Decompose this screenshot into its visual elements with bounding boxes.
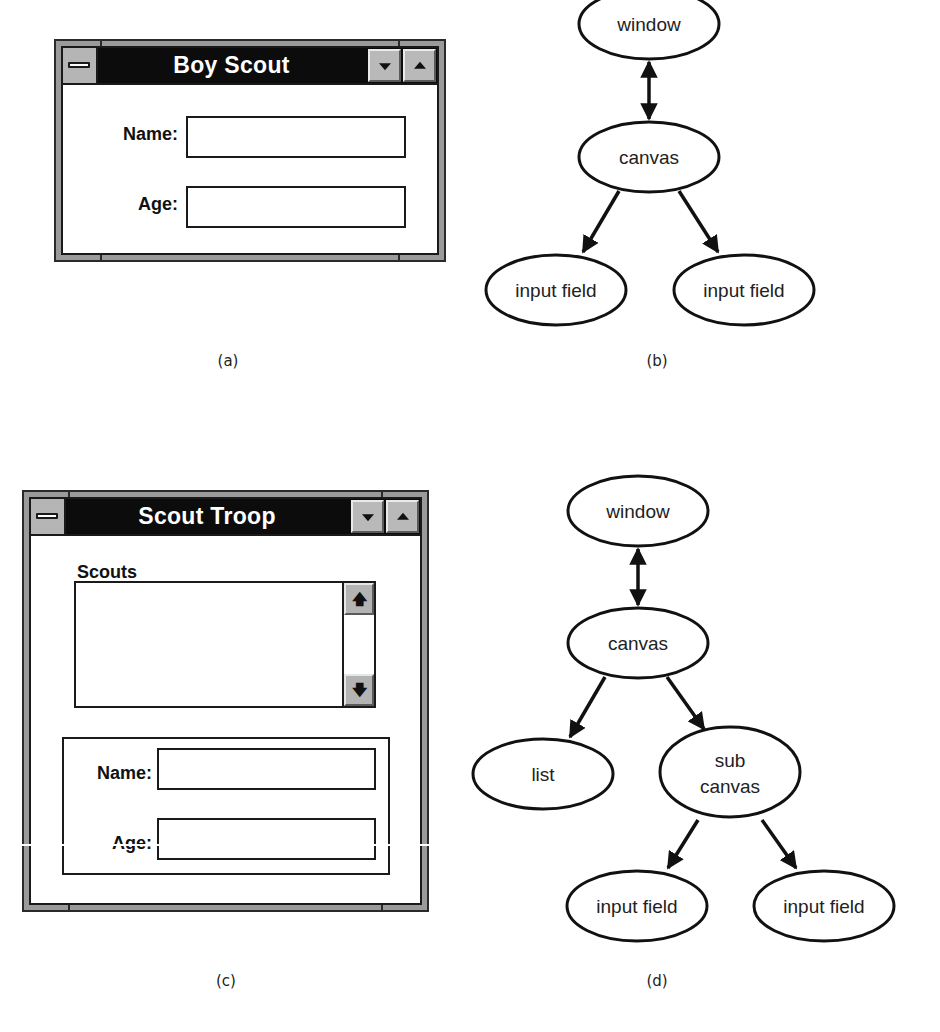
scroll-up-button[interactable]: 🡅 [344,583,374,615]
widget-tree-diagram-d: window canvas list sub canvas input fiel… [460,470,900,950]
scouts-list-label: Scouts [77,562,137,583]
triangle-down-icon [362,514,374,521]
edge-canvas-list [570,677,605,737]
node-label: sub [715,750,746,771]
title-bar[interactable]: Boy Scout [63,48,437,85]
triangle-up-icon [414,61,426,68]
name-label: Name: [83,124,178,145]
edge-subcanvas-input1 [668,820,698,868]
caption-a: (a) [208,352,248,370]
scan-artifact-line [0,844,432,846]
edge-canvas-input1 [583,191,619,252]
node-label: canvas [619,147,679,168]
frame-corner-mark [100,255,102,262]
caption-d: (d) [637,972,677,990]
minimize-button[interactable] [368,49,401,82]
frame-corner-mark [398,255,400,262]
title-bar[interactable]: Scout Troop [31,499,420,536]
frame-corner-mark [398,39,400,46]
age-input[interactable] [157,818,376,860]
boy-scout-window: Boy Scout Name: Age: [54,39,446,262]
scout-detail-groupbox: Name: Age: [62,737,390,875]
arrow-up-icon: 🡅 [352,590,367,607]
maximize-button[interactable] [403,49,436,82]
caption-c: (c) [206,972,246,990]
caption-b: (b) [637,352,677,370]
node-label: canvas [608,633,668,654]
scouts-listbox[interactable]: 🡅 🡇 [74,581,376,708]
node-label: input field [515,280,596,301]
node-label: input field [596,896,677,917]
window-client-area: Boy Scout Name: Age: [61,46,439,255]
node-label: canvas [700,776,760,797]
system-menu-button[interactable] [63,48,98,83]
maximize-button[interactable] [386,500,419,533]
arrow-down-icon: 🡇 [352,681,367,698]
system-menu-icon [36,513,58,519]
edge-canvas-input2 [679,191,718,252]
window-title: Scout Troop [66,499,348,534]
triangle-up-icon [397,512,409,519]
name-input[interactable] [157,748,376,790]
minimize-button[interactable] [351,500,384,533]
system-menu-icon [68,62,90,68]
window-title: Boy Scout [98,48,365,83]
scroll-down-button[interactable]: 🡇 [344,674,374,706]
system-menu-button[interactable] [31,499,66,534]
node-label: window [616,14,681,35]
edge-canvas-subcanvas [667,677,704,729]
triangle-down-icon [379,63,391,70]
edge-subcanvas-input2 [762,820,796,868]
widget-tree-diagram-b: window canvas input field input field [460,0,840,340]
frame-corner-mark [381,905,383,912]
name-input[interactable] [186,116,406,158]
name-label: Name: [68,763,152,784]
frame-corner-mark [68,905,70,912]
node-label: window [605,501,670,522]
node-label: list [531,764,555,785]
node-label: input field [703,280,784,301]
frame-corner-mark [100,39,102,46]
frame-corner-mark [381,490,383,497]
node-label: input field [783,896,864,917]
node-sub-canvas [660,727,800,817]
vertical-scrollbar[interactable]: 🡅 🡇 [342,583,374,706]
age-label: Age: [83,194,178,215]
scout-troop-window: Scout Troop Scouts 🡅 🡇 Name: Age: [22,490,429,912]
age-input[interactable] [186,186,406,228]
frame-corner-mark [68,490,70,497]
